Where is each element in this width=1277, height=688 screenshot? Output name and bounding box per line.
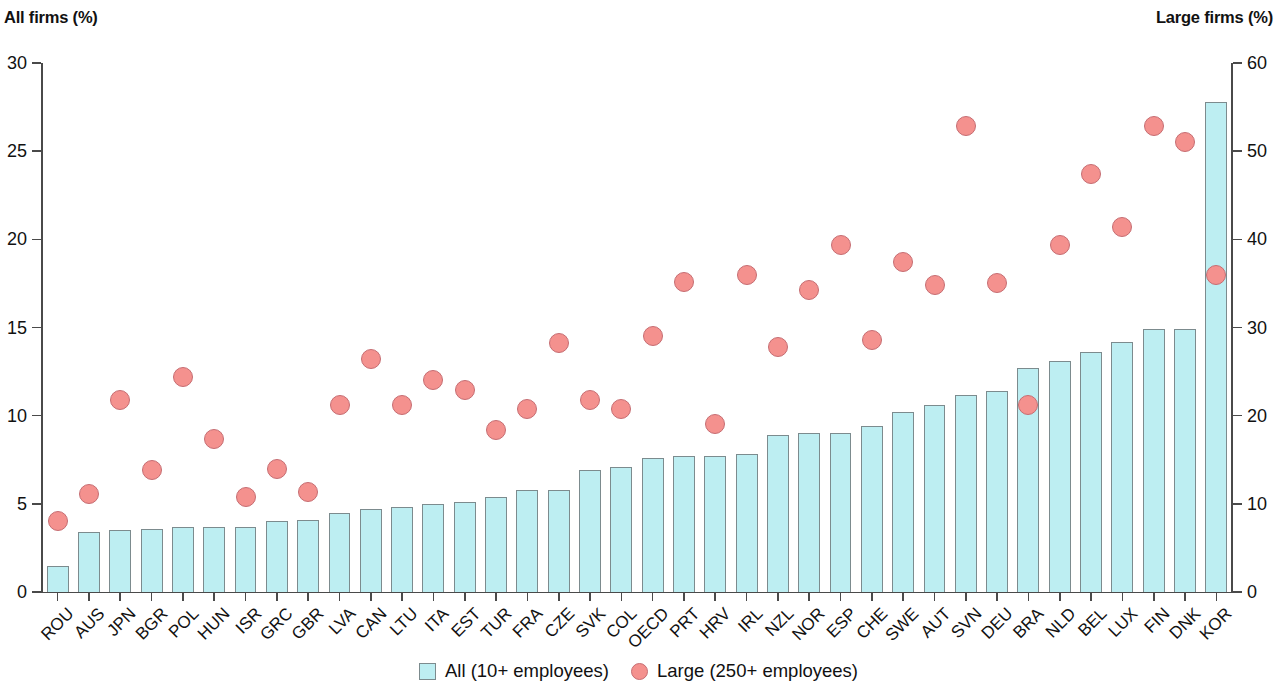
bar-oecd[interactable] xyxy=(642,458,664,592)
dot-aut[interactable] xyxy=(925,275,945,295)
x-axis-tick xyxy=(1184,592,1186,601)
x-axis-label-gbr: GBR xyxy=(314,604,328,618)
bar-fra[interactable] xyxy=(516,490,538,592)
bar-tur[interactable] xyxy=(485,497,507,592)
x-axis-label-fin: FIN xyxy=(1160,604,1174,618)
bar-prt[interactable] xyxy=(673,456,695,592)
dot-jpn[interactable] xyxy=(110,390,130,410)
left-axis-tick xyxy=(32,503,41,505)
dot-prt[interactable] xyxy=(674,272,694,292)
dot-svk[interactable] xyxy=(580,390,600,410)
dot-bel[interactable] xyxy=(1081,164,1101,184)
bar-gbr[interactable] xyxy=(297,520,319,592)
dot-oecd[interactable] xyxy=(643,326,663,346)
bar-pol[interactable] xyxy=(172,527,194,592)
dot-nzl[interactable] xyxy=(768,337,788,357)
dot-hun[interactable] xyxy=(204,429,224,449)
dot-can[interactable] xyxy=(361,349,381,369)
bar-dnk[interactable] xyxy=(1174,329,1196,592)
bar-deu[interactable] xyxy=(986,391,1008,592)
bar-aus[interactable] xyxy=(78,532,100,592)
right-axis-tick-label: 10 xyxy=(1247,495,1267,513)
bar-che[interactable] xyxy=(861,426,883,592)
bar-kor[interactable] xyxy=(1205,102,1227,592)
left-axis-tick-label: 30 xyxy=(7,54,27,72)
x-axis-label-nor: NOR xyxy=(815,604,829,618)
legend-item-large[interactable]: Large (250+ employees) xyxy=(631,660,858,682)
bar-cze[interactable] xyxy=(548,490,570,592)
dot-svn[interactable] xyxy=(956,116,976,136)
dot-ita[interactable] xyxy=(423,370,443,390)
bar-lux[interactable] xyxy=(1111,342,1133,592)
bar-ltu[interactable] xyxy=(391,507,413,592)
right-axis-tick xyxy=(1233,591,1242,593)
bar-irl[interactable] xyxy=(736,454,758,592)
dot-fin[interactable] xyxy=(1144,116,1164,136)
dot-lux[interactable] xyxy=(1112,217,1132,237)
x-axis-tick xyxy=(652,592,654,601)
left-axis-tick xyxy=(32,327,41,329)
dot-kor[interactable] xyxy=(1206,265,1226,285)
bar-nld[interactable] xyxy=(1049,361,1071,592)
dot-ltu[interactable] xyxy=(392,395,412,415)
x-axis-tick xyxy=(558,592,560,601)
dot-nld[interactable] xyxy=(1050,235,1070,255)
bar-lva[interactable] xyxy=(329,513,351,592)
bar-bgr[interactable] xyxy=(141,529,163,592)
x-axis-tick xyxy=(840,592,842,601)
bar-svk[interactable] xyxy=(579,470,601,592)
left-axis-tick xyxy=(32,150,41,152)
bar-grc[interactable] xyxy=(266,521,288,592)
bar-svn[interactable] xyxy=(955,395,977,592)
dot-swe[interactable] xyxy=(893,252,913,272)
x-axis-label-est: EST xyxy=(471,604,485,618)
dot-pol[interactable] xyxy=(173,367,193,387)
bar-bel[interactable] xyxy=(1080,352,1102,592)
dot-deu[interactable] xyxy=(987,273,1007,293)
bar-can[interactable] xyxy=(360,509,382,592)
x-axis-tick xyxy=(276,592,278,601)
dot-isr[interactable] xyxy=(236,487,256,507)
x-axis-tick xyxy=(57,592,59,601)
bar-esp[interactable] xyxy=(830,433,852,592)
x-axis-label-hun: HUN xyxy=(220,604,234,618)
dot-lva[interactable] xyxy=(330,395,350,415)
dot-grc[interactable] xyxy=(267,459,287,479)
left-axis-tick xyxy=(32,62,41,64)
bar-rou[interactable] xyxy=(47,566,69,592)
x-axis-tick xyxy=(902,592,904,601)
dot-esp[interactable] xyxy=(831,235,851,255)
dot-fra[interactable] xyxy=(517,399,537,419)
bar-aut[interactable] xyxy=(924,405,946,592)
dot-hrv[interactable] xyxy=(705,414,725,434)
bar-hrv[interactable] xyxy=(704,456,726,592)
bar-swe[interactable] xyxy=(892,412,914,592)
dot-col[interactable] xyxy=(611,399,631,419)
dot-dnk[interactable] xyxy=(1175,132,1195,152)
dot-bgr[interactable] xyxy=(142,460,162,480)
dot-aus[interactable] xyxy=(79,484,99,504)
dot-est[interactable] xyxy=(455,380,475,400)
dot-gbr[interactable] xyxy=(298,482,318,502)
dot-tur[interactable] xyxy=(486,420,506,440)
bar-fin[interactable] xyxy=(1143,329,1165,592)
bar-col[interactable] xyxy=(610,467,632,592)
bar-nor[interactable] xyxy=(798,433,820,592)
x-axis-tick xyxy=(151,592,153,601)
bar-jpn[interactable] xyxy=(109,530,131,592)
bar-est[interactable] xyxy=(454,502,476,592)
x-axis-label-cze: CZE xyxy=(565,604,579,618)
x-axis-label-nzl: NZL xyxy=(784,604,798,618)
legend-item-all[interactable]: All (10+ employees) xyxy=(419,660,609,682)
dot-che[interactable] xyxy=(862,330,882,350)
dot-nor[interactable] xyxy=(799,280,819,300)
bar-hun[interactable] xyxy=(203,527,225,592)
dot-cze[interactable] xyxy=(549,333,569,353)
bar-isr[interactable] xyxy=(235,527,257,592)
x-axis-label-deu: DEU xyxy=(1003,604,1017,618)
bar-ita[interactable] xyxy=(422,504,444,592)
bar-nzl[interactable] xyxy=(767,435,789,592)
dot-rou[interactable] xyxy=(48,511,68,531)
left-axis-tick xyxy=(32,239,41,241)
dot-irl[interactable] xyxy=(737,265,757,285)
